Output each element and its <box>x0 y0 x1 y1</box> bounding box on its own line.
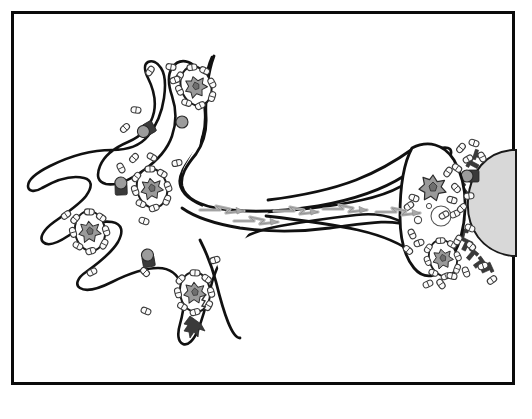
free-knob <box>176 116 188 128</box>
synapse-top <box>169 58 222 115</box>
neuron-diagram-figure: Neuron with synapses dendrite soma axon … <box>0 0 532 419</box>
membrane-knob-lower <box>141 248 156 268</box>
membrane-knob-left <box>115 177 128 195</box>
synapse-mid-left <box>127 162 176 216</box>
synapse-far-left <box>66 206 113 258</box>
neuron-outline <box>28 57 452 344</box>
membrane-knob-synaptic <box>461 170 479 182</box>
neuron-illustration <box>0 0 532 419</box>
synapse-bottom <box>172 267 217 317</box>
